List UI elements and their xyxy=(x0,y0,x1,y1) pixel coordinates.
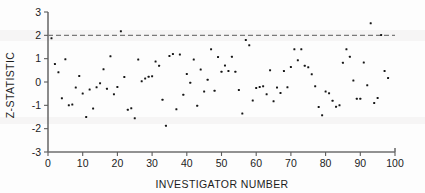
data-point xyxy=(182,94,184,96)
data-point xyxy=(172,53,174,55)
data-point xyxy=(78,75,80,77)
data-point xyxy=(210,48,212,50)
x-tick-label: 70 xyxy=(285,157,297,169)
data-point xyxy=(356,98,358,100)
data-point xyxy=(175,108,177,110)
plot-canvas: 0102030405060708090100 -3-2-10123 INVEST… xyxy=(0,0,425,193)
data-point xyxy=(307,66,309,68)
data-point xyxy=(137,59,139,61)
y-tick-label: 2 xyxy=(35,29,41,41)
data-point xyxy=(155,60,157,62)
data-point xyxy=(85,116,87,118)
data-point xyxy=(384,70,386,72)
data-point xyxy=(120,30,122,32)
x-tick-label: 50 xyxy=(216,157,228,169)
data-point xyxy=(96,86,98,88)
x-tick-label: 60 xyxy=(250,157,262,169)
data-point xyxy=(387,77,389,79)
x-tick-label: 100 xyxy=(386,157,404,169)
data-point xyxy=(245,39,247,41)
data-point xyxy=(352,80,354,82)
data-point xyxy=(179,53,181,55)
data-point xyxy=(123,76,125,78)
data-point xyxy=(61,97,63,99)
data-point xyxy=(259,86,261,88)
x-tick-label: 40 xyxy=(181,157,193,169)
data-point xyxy=(300,48,302,50)
data-point xyxy=(214,90,216,92)
data-point xyxy=(279,92,281,94)
data-point xyxy=(311,73,313,75)
data-point xyxy=(231,56,233,58)
data-point xyxy=(144,78,146,80)
data-point xyxy=(318,106,320,108)
data-point xyxy=(370,22,372,24)
data-point xyxy=(75,87,77,89)
y-tick-label: 0 xyxy=(35,76,41,88)
y-tick-label: -2 xyxy=(32,122,41,134)
y-tick-label: -3 xyxy=(32,146,41,158)
data-point xyxy=(297,59,299,61)
data-point xyxy=(193,59,195,61)
data-point xyxy=(293,48,295,50)
data-point xyxy=(276,87,278,89)
data-point xyxy=(203,91,205,93)
data-point xyxy=(130,107,132,109)
data-point xyxy=(269,69,271,71)
data-point xyxy=(359,98,361,100)
data-point xyxy=(290,66,292,68)
data-point xyxy=(113,93,115,95)
data-point xyxy=(380,34,382,36)
data-point xyxy=(273,100,275,102)
data-point xyxy=(186,73,188,75)
data-point xyxy=(266,93,268,95)
data-point xyxy=(283,70,285,72)
data-point xyxy=(109,55,111,57)
y-tick-label: 1 xyxy=(35,52,41,64)
data-point xyxy=(103,68,105,70)
x-tick-label: 80 xyxy=(320,157,332,169)
data-point xyxy=(71,103,73,105)
data-point xyxy=(248,44,250,46)
data-point xyxy=(234,71,236,73)
data-point xyxy=(238,89,240,91)
data-point xyxy=(304,65,306,67)
data-point xyxy=(196,105,198,107)
x-tick-label: 30 xyxy=(146,157,158,169)
data-point xyxy=(227,70,229,72)
data-point xyxy=(255,87,257,89)
data-point xyxy=(241,113,243,115)
y-tick-label: -1 xyxy=(32,99,41,111)
data-point xyxy=(342,62,344,64)
data-point xyxy=(68,104,70,106)
data-point xyxy=(377,97,379,99)
data-point xyxy=(363,61,365,63)
data-point xyxy=(92,108,94,110)
data-point xyxy=(148,76,150,78)
data-point xyxy=(224,64,226,66)
data-point xyxy=(286,86,288,88)
data-point xyxy=(332,100,334,102)
y-axis-title: Z-STATISTIC xyxy=(4,52,16,118)
data-point xyxy=(335,106,337,108)
data-point xyxy=(262,85,264,87)
data-point xyxy=(50,37,52,39)
data-point xyxy=(366,84,368,86)
x-tick-label: 90 xyxy=(354,157,366,169)
data-point xyxy=(116,86,118,88)
data-point xyxy=(165,125,167,127)
data-point xyxy=(189,82,191,84)
x-tick-label: 0 xyxy=(45,157,51,169)
data-point xyxy=(252,99,254,101)
data-point xyxy=(314,85,316,87)
data-point xyxy=(54,63,56,65)
data-point xyxy=(82,92,84,94)
scan-artifact-band-lower xyxy=(0,117,425,124)
data-point xyxy=(207,79,209,81)
data-point xyxy=(217,56,219,58)
data-point xyxy=(141,80,143,82)
data-point xyxy=(321,114,323,116)
data-point xyxy=(127,109,129,111)
x-tick-label: 20 xyxy=(112,157,124,169)
data-point xyxy=(158,65,160,67)
